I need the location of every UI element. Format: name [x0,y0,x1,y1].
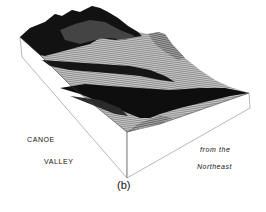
view-direction-line2: Northeast [197,163,232,170]
view-direction-line1: from the [200,146,230,153]
title-valley: VALLEY [44,158,74,165]
panel-label: (b) [117,179,130,191]
title-canoe: CANOE [27,136,55,143]
terrain-illustration [0,0,266,212]
